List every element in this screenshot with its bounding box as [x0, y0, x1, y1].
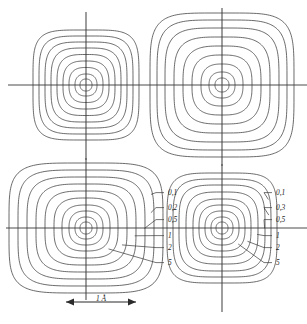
contour-plot-canvas: 0,10,20,5125 0,10,30,5125 1 Å — [0, 0, 307, 324]
scale-bar: 1 Å — [66, 294, 136, 306]
contour-level-label: 0,5 — [168, 215, 178, 224]
contour-leader-line — [248, 241, 273, 247]
contour-leader-line — [122, 245, 164, 248]
contour-level-label: 0,2 — [168, 203, 178, 212]
contour-level-label: 0,3 — [276, 203, 286, 212]
contour-figure: 0,10,20,5125 0,10,30,5125 1 Å — [0, 0, 307, 324]
scale-bar-arrow-right-icon — [128, 299, 136, 306]
axes-group — [6, 8, 307, 312]
scale-bar-arrow-left-icon — [66, 299, 74, 306]
contour-level-label: 1 — [276, 231, 280, 240]
contour-leader-line — [257, 234, 272, 235]
contour-level-label: 0,1 — [276, 188, 285, 197]
contour-level-label: 2 — [276, 243, 280, 252]
contour-level-label: 1 — [168, 231, 172, 240]
contour-level-label: 5 — [276, 258, 280, 267]
contour-level-label: 0,5 — [276, 215, 286, 224]
contour-level-label: 2 — [168, 243, 172, 252]
contour-leader-line — [151, 208, 164, 213]
contour-level-label: 5 — [168, 258, 172, 267]
scale-bar-label: 1 Å — [96, 294, 107, 303]
contour-level-label: 0,1 — [168, 188, 177, 197]
